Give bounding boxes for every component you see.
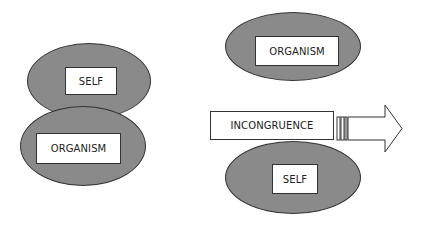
incongruence-label: INCONGRUENCE [210,111,334,140]
right-self-label: SELF [272,164,318,194]
left-self-label: SELF [65,67,117,95]
left-organism-label: ORGANISM [36,133,121,164]
right-arrow-icon [335,103,405,155]
right-organism-label: ORGANISM [255,36,339,66]
